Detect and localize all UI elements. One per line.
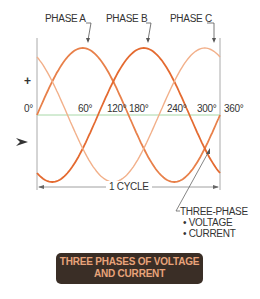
arrowhead-left-icon: [38, 185, 44, 189]
tick-120: 120°: [107, 103, 126, 114]
tick-240: 240°: [167, 103, 186, 114]
tick-0: 0°: [24, 103, 33, 114]
phase-c-label: PHASE C: [170, 13, 212, 24]
caption-line-1: THREE PHASES OF VOLTAGE: [56, 256, 203, 268]
phase-a-leader: [86, 23, 91, 40]
note-title: THREE-PHASE: [180, 206, 248, 217]
tick-300: 300°: [197, 103, 216, 114]
arrowhead-icon: [86, 38, 90, 43]
phase-c-leader: [207, 23, 214, 40]
note-item-current: • CURRENT: [180, 228, 248, 239]
minus-sign-icon: [16, 138, 28, 146]
phase-b-label: PHASE B: [106, 13, 147, 24]
note-item-voltage: • VOLTAGE: [180, 217, 248, 228]
caption-line-2: AND CURRENT: [56, 268, 203, 280]
tick-360: 360°: [224, 103, 243, 114]
arrowhead-icon: [146, 38, 150, 43]
phase-a-label: PHASE A: [45, 13, 86, 24]
tick-180: 180°: [129, 103, 148, 114]
plus-sign: +: [24, 74, 31, 88]
figure-caption: THREE PHASES OF VOLTAGE AND CURRENT: [56, 253, 203, 284]
arrowhead-icon: [212, 38, 216, 43]
cycle-label: 1 CYCLE: [106, 181, 152, 192]
phase-b-leader: [146, 23, 151, 40]
three-phase-note: THREE-PHASE • VOLTAGE • CURRENT: [180, 206, 248, 239]
arrowhead-right-icon: [213, 185, 219, 189]
tick-60: 60°: [78, 103, 92, 114]
